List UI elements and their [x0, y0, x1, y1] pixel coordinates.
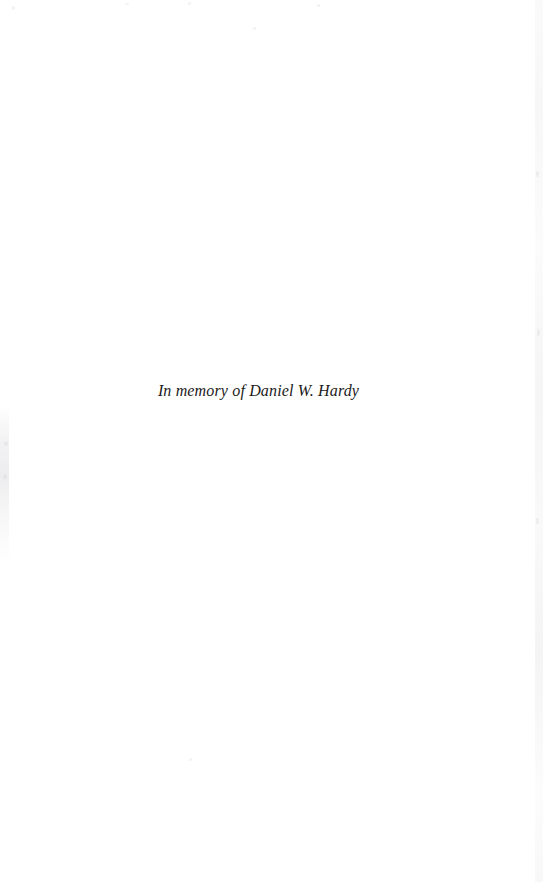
dedication-line: In memory of Daniel W. Hardy — [0, 381, 543, 401]
scan-speckle — [188, 2, 191, 5]
scan-speckle — [536, 171, 539, 177]
scan-speckle — [12, 6, 15, 10]
right-scan-edge-artifact — [535, 0, 543, 882]
scan-speckle — [317, 4, 320, 7]
dedication-text: In memory of Daniel W. Hardy — [158, 382, 359, 399]
scan-speckle — [4, 441, 8, 446]
scan-speckle — [253, 27, 256, 30]
scan-speckle — [3, 474, 7, 479]
scan-speckle — [125, 3, 129, 5]
scan-speckle — [189, 758, 192, 761]
scan-speckle — [536, 518, 539, 524]
scan-speckle — [537, 329, 540, 336]
left-scan-edge-artifact — [0, 0, 9, 882]
dedication-page: In memory of Daniel W. Hardy — [0, 0, 543, 882]
